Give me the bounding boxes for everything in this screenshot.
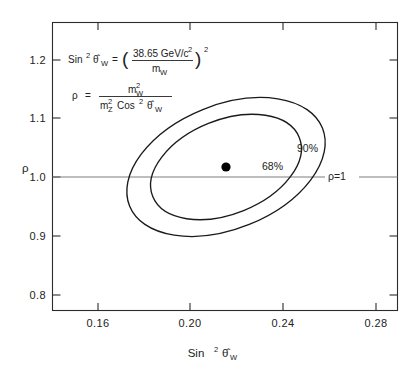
formula1-lhs-sub: W [101, 59, 109, 68]
x-axis-title-exponent: 2 [214, 345, 218, 354]
y-tick-labels: 1.2 1.1 1.0 0.9 0.8 [30, 54, 47, 301]
x-axis-title: Sin 2 θ̂ W [188, 345, 238, 362]
formula1-lhs-symbol: θ̂ [93, 54, 101, 65]
formula-rho: ρ = m W 2 m Z 2 Cos 2 θ̂ W [72, 81, 172, 114]
rho-equals-one-label: ρ=1 [328, 170, 346, 182]
y-tick-label: 0.9 [30, 230, 47, 242]
contour-label-68: 68% [262, 160, 283, 172]
formula1-paren-close: ) [195, 48, 201, 69]
formula1-outer-exp: 2 [204, 45, 208, 54]
y-tick-label: 1.1 [30, 112, 47, 124]
formula1-numerator: 38.65 GeV/c [133, 48, 189, 59]
formula2-den-cos-exp: 2 [139, 97, 143, 106]
best-fit-point [221, 162, 230, 171]
formula1-numerator-exp: 2 [188, 45, 192, 54]
y-tick-label: 1.2 [30, 54, 47, 66]
x-tick-label: 0.20 [178, 317, 201, 329]
confidence-contour-plot: 90% 68% ρ=1 1.2 1.1 1.0 0.9 0.8 0.16 0.2… [0, 0, 415, 372]
y-tick-label: 1.0 [30, 171, 47, 183]
formula2-den-cos: Cos [117, 100, 135, 111]
figure-container: 90% 68% ρ=1 1.2 1.1 1.0 0.9 0.8 0.16 0.2… [0, 0, 415, 372]
formula2-lhs: ρ [72, 90, 78, 101]
x-tick-label: 0.28 [364, 317, 387, 329]
formula2-den-m-exp: 2 [108, 97, 112, 106]
x-axis-title-subscript: W [230, 353, 238, 362]
formula1-lhs-exp: 2 [86, 51, 90, 60]
y-axis-title: ρ [22, 162, 29, 174]
y-tick-label: 0.8 [30, 289, 47, 301]
formula1-lhs-base: Sin [68, 54, 82, 65]
formula1-denominator-sub: W [160, 68, 168, 77]
x-axis-title-base: Sin [188, 347, 205, 359]
x-axis-ticks [98, 23, 376, 311]
formula2-den-m-sub: Z [108, 105, 113, 114]
formula1-paren-open: ( [122, 48, 129, 69]
formula1-equals: = [112, 54, 118, 65]
formula2-equals: = [85, 90, 91, 101]
x-tick-label: 0.16 [86, 317, 109, 329]
x-tick-label: 0.24 [271, 317, 294, 329]
x-tick-labels: 0.16 0.20 0.24 0.28 [86, 317, 387, 329]
formula2-num-exp: 2 [136, 81, 140, 90]
contour-label-90: 90% [297, 142, 318, 154]
formula2-den-theta: θ̂ [147, 100, 155, 111]
formula2-den-theta-sub: W [155, 105, 163, 114]
formula-sin2-theta: Sin 2 θ̂ W = ( 38.65 GeV/c 2 m W ) 2 [68, 45, 208, 77]
